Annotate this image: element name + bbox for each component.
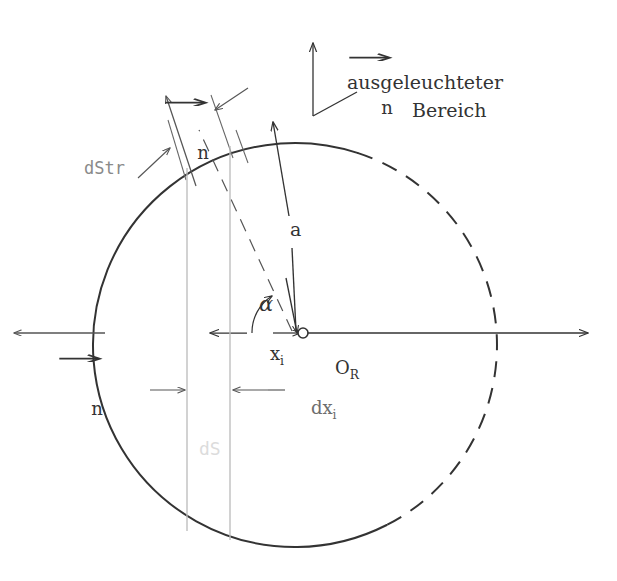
- xi-label: xi: [247, 327, 284, 385]
- ds-label: dS: [199, 440, 221, 458]
- normal-top-label: n: [324, 45, 393, 153]
- dstr-arrow-right: [215, 88, 248, 110]
- vector-arrow-accent-left: [57, 353, 103, 362]
- vector-arrow-accent-surface: [163, 97, 209, 106]
- xi-subscript: i: [280, 354, 284, 368]
- radius-label: a: [290, 220, 301, 239]
- vector-arrow-accent-top: [347, 52, 393, 61]
- dxi-label: dxi: [288, 381, 337, 439]
- dstr-label: dStr: [84, 160, 125, 177]
- normal-left-letter: n: [91, 398, 103, 419]
- radius-a-arrow-upper: [273, 122, 289, 216]
- region-label-line2: Bereich: [412, 101, 487, 120]
- center-point-marker: [298, 328, 308, 338]
- dstr-tick-far-right: [236, 130, 248, 163]
- normal-left-label: n: [34, 346, 103, 454]
- center-letter: O: [335, 357, 350, 378]
- normal-surface-letter: n: [197, 142, 209, 163]
- xi-letter: x: [270, 343, 280, 364]
- center-subscript: R: [350, 368, 359, 382]
- dxi-subscript: i: [333, 408, 337, 422]
- dxi-letters: dx: [311, 397, 333, 418]
- normal-surface-label: n: [140, 90, 209, 198]
- normal-top-letter: n: [381, 97, 393, 118]
- diagram-canvas: ausgeleuchteter Bereich n n n: [0, 0, 617, 581]
- alpha-label: α: [259, 294, 273, 315]
- diagram-vector-layer: [0, 0, 617, 581]
- dashed-radius-line: [199, 130, 292, 331]
- circle-dashed-arc: [357, 153, 497, 525]
